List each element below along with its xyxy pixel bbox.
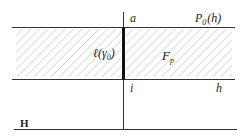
label-a: a <box>130 11 136 25</box>
label-i: i <box>130 81 133 95</box>
label-h: h <box>216 81 222 95</box>
label-ell-gamma0: ℓ(γ0) <box>93 46 115 62</box>
half-plane-diagram: a P0(h) ℓ(γ0) Fp i h H <box>0 0 247 138</box>
hatched-region-Fp <box>126 29 232 77</box>
label-P0h: P0(h) <box>194 11 221 27</box>
label-H: H <box>20 117 29 129</box>
